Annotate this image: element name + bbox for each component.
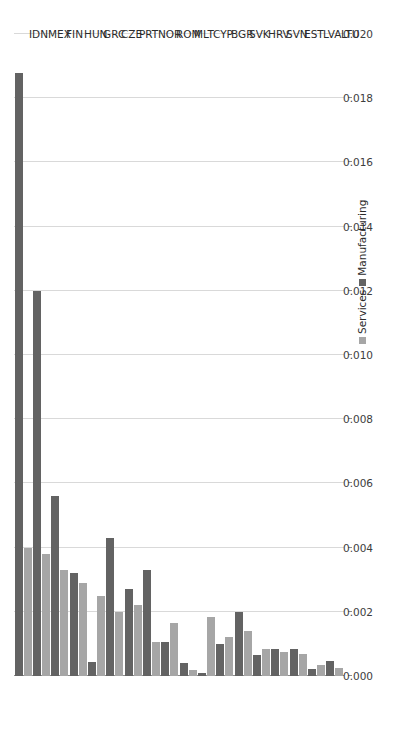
bar-services <box>280 652 288 676</box>
bar-group <box>51 34 69 676</box>
bar-services <box>262 649 270 676</box>
bar-group <box>252 34 270 676</box>
bar-services <box>152 642 160 676</box>
bar-manufacturing <box>161 642 169 676</box>
bar-group <box>106 34 124 676</box>
category-tick-label: PRT <box>139 28 158 40</box>
bar-group <box>161 34 179 676</box>
category-tick-label: SVK <box>249 28 270 40</box>
legend-swatch-services-icon <box>359 337 366 344</box>
bar-services <box>42 554 50 676</box>
legend-label-manufacturing: Manufacturing <box>356 200 368 276</box>
bar-manufacturing <box>33 291 41 676</box>
bar-services <box>115 612 123 676</box>
legend-item-manufacturing: Manufacturing <box>356 200 368 286</box>
bar-group <box>87 34 105 676</box>
bar-manufacturing <box>198 673 206 676</box>
bar-services <box>60 570 68 676</box>
bar-services <box>134 605 142 676</box>
bar-manufacturing <box>70 573 78 676</box>
bar-services <box>299 654 307 676</box>
bar-manufacturing <box>253 655 261 676</box>
category-tick-label: EST <box>304 28 324 40</box>
bar-group <box>326 34 344 676</box>
bar-group <box>124 34 142 676</box>
category-tick-label: FIN <box>66 28 83 40</box>
bar-group <box>234 34 252 676</box>
category-tick-label: LVA <box>323 28 341 40</box>
value-axis-ticks: 0.0200.0180.0160.0140.0120.0100.0080.006… <box>352 34 408 676</box>
bar-group <box>289 34 307 676</box>
bar-group <box>14 34 32 676</box>
bar-services <box>97 596 105 676</box>
bar-services <box>244 631 252 676</box>
bar-services <box>225 637 233 676</box>
category-tick-label: CYP <box>213 28 233 40</box>
value-tick-label: 0.018 <box>343 92 373 104</box>
legend-label-services: Services <box>356 290 368 334</box>
bar-services <box>207 617 215 676</box>
bar-group <box>69 34 87 676</box>
bar-manufacturing <box>290 649 298 676</box>
value-tick-label: 0.016 <box>343 156 373 168</box>
legend-swatch-manufacturing-icon <box>359 279 366 286</box>
bar-manufacturing <box>180 663 188 676</box>
bar-manufacturing <box>235 612 243 676</box>
bar-manufacturing <box>125 589 133 676</box>
category-tick-label: IDN <box>29 28 48 40</box>
bar-manufacturing <box>271 649 279 676</box>
bar-services <box>189 670 197 676</box>
category-tick-label: MLT <box>194 28 214 40</box>
bar-manufacturing <box>106 538 114 676</box>
bar-group <box>216 34 234 676</box>
bar-services <box>79 583 87 676</box>
value-tick-label: 0.002 <box>343 606 373 618</box>
bar-services <box>170 623 178 676</box>
category-axis-ticks: IDNMEXFINHUNGRCCZEPRTNORROMMLTCYPBGRSVKH… <box>14 4 344 34</box>
bar-group <box>179 34 197 676</box>
bar-group <box>142 34 160 676</box>
bar-manufacturing <box>326 661 334 676</box>
plot-area <box>14 34 344 676</box>
bar-services <box>317 665 325 676</box>
bar-manufacturing <box>51 496 59 676</box>
value-tick-label: 0.000 <box>343 670 373 682</box>
bar-manufacturing <box>216 644 224 676</box>
bar-manufacturing <box>15 73 23 676</box>
bar-group <box>32 34 50 676</box>
category-tick-label: LTU <box>341 28 360 40</box>
value-tick-label: 0.008 <box>343 413 373 425</box>
value-tick-label: 0.006 <box>343 477 373 489</box>
value-tick-label: 0.010 <box>343 349 373 361</box>
bar-group <box>197 34 215 676</box>
chart-legend: Services Manufacturing <box>356 200 368 344</box>
bar-manufacturing <box>143 570 151 676</box>
bar-group <box>271 34 289 676</box>
value-tick-label: 0.004 <box>343 542 373 554</box>
legend-item-services: Services <box>356 290 368 344</box>
bar-manufacturing <box>88 662 96 676</box>
bar-chart-figure: 0.0200.0180.0160.0140.0120.0100.0080.006… <box>0 0 418 734</box>
bar-services <box>24 548 32 676</box>
bar-manufacturing <box>308 669 316 676</box>
bar-group <box>307 34 325 676</box>
